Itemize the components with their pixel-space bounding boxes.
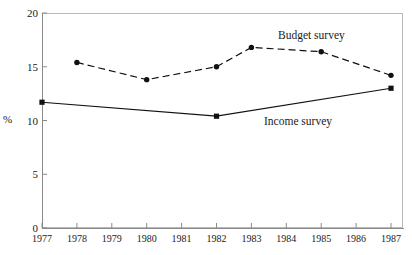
x-axis-line [42, 228, 404, 229]
plot-frame [42, 13, 403, 228]
x-tick-label: 1984 [269, 234, 303, 244]
series-label-income-survey: Income survey [264, 115, 332, 127]
x-tick-label: 1983 [234, 234, 268, 244]
x-tick-label: 1978 [60, 234, 94, 244]
y-axis-line [42, 13, 43, 229]
y-tick-label: 10 [14, 116, 38, 127]
y-axis-title: % [3, 114, 12, 125]
y-tick-label: 5 [14, 169, 38, 180]
chart-container: % 05101520 19771978197919801981198219831… [0, 0, 412, 255]
x-tick-label: 1982 [200, 234, 234, 244]
x-tick-label: 1980 [130, 234, 164, 244]
x-tick-label: 1977 [25, 234, 59, 244]
y-tick-label: 20 [14, 8, 38, 19]
series-label-budget-survey: Budget survey [278, 29, 345, 41]
x-tick-label: 1981 [165, 234, 199, 244]
x-tick-label: 1979 [95, 234, 129, 244]
x-tick-label: 1987 [374, 234, 408, 244]
x-tick-label: 1985 [304, 234, 338, 244]
y-tick-label: 15 [14, 62, 38, 73]
x-tick-label: 1986 [339, 234, 373, 244]
